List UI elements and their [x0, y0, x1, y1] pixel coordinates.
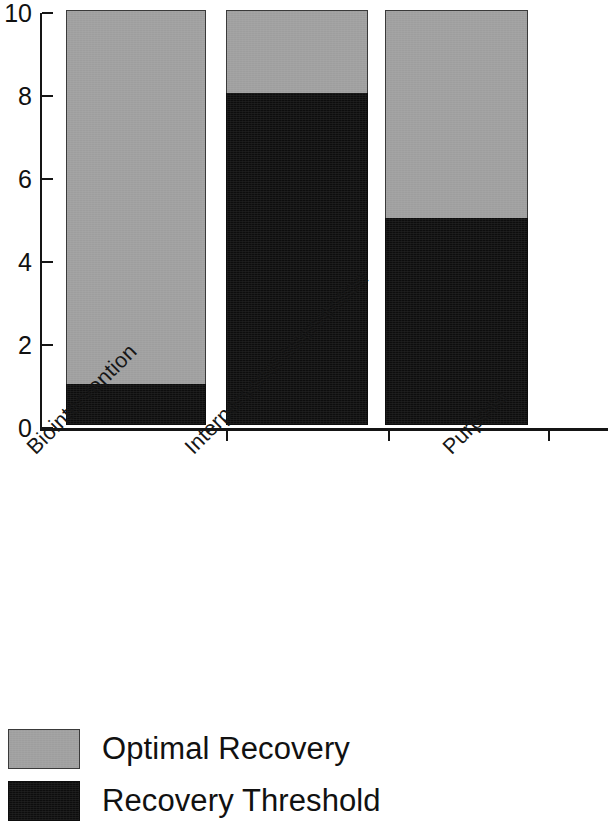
y-tick-label-4: 4 [18, 248, 32, 277]
x-tick-2 [548, 431, 550, 441]
bar-segment-optimal-recovery[interactable] [66, 10, 206, 384]
x-tick-0 [226, 431, 228, 441]
legend-item-recovery-threshold: Recovery Threshold [8, 775, 608, 827]
legend-swatch-recovery-threshold [8, 781, 80, 821]
bar-segment-recovery-threshold[interactable] [385, 218, 528, 426]
bar-purpose[interactable] [385, 10, 528, 425]
y-tick-label-10: 10 [4, 0, 32, 28]
legend-label-recovery-threshold: Recovery Threshold [102, 783, 381, 819]
legend-item-optimal-recovery: Optimal Recovery [8, 723, 608, 775]
y-tick-4 [42, 261, 53, 263]
chart-legend: Optimal Recovery Recovery Threshold [8, 723, 608, 827]
y-tick-10 [42, 12, 53, 14]
x-tick-1 [388, 431, 390, 441]
legend-swatch-optimal-recovery [8, 729, 80, 769]
y-tick-8 [42, 95, 53, 97]
y-tick-label-2: 2 [18, 331, 32, 360]
y-tick-2 [42, 344, 53, 346]
legend-label-optimal-recovery: Optimal Recovery [102, 731, 350, 767]
stacked-bar-chart-figure: 0246810 BiointerventionInterpersonal Int… [0, 0, 614, 834]
y-axis-spine [40, 13, 42, 429]
y-tick-label-6: 6 [18, 165, 32, 194]
x-axis-spine [40, 428, 608, 431]
bar-interpersonal-intervention[interactable] [226, 10, 368, 425]
bar-segment-optimal-recovery[interactable] [226, 10, 368, 93]
y-tick-6 [42, 178, 53, 180]
bar-segment-optimal-recovery[interactable] [385, 10, 528, 218]
y-tick-label-8: 8 [18, 82, 32, 111]
